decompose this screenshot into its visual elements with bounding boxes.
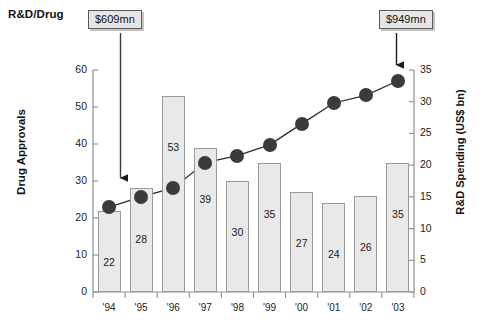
- line-marker-03: [391, 74, 405, 88]
- line-marker-94: [102, 200, 116, 214]
- y-left-tick-label: 60: [65, 63, 87, 75]
- chart-canvas: R&D/Drug Drug Approvals R&D Spending (US…: [0, 0, 490, 327]
- x-tick-label: '02: [349, 302, 383, 313]
- y-left-tick-label: 40: [65, 137, 87, 149]
- x-tick-label: '00: [285, 302, 319, 313]
- y-right-tick-label: 15: [420, 190, 444, 202]
- bar-value-label: 24: [317, 248, 351, 260]
- line-marker-97: [198, 156, 212, 170]
- x-tick-label: '03: [381, 302, 415, 313]
- x-tick-label: '01: [317, 302, 351, 313]
- line-marker-01: [327, 96, 341, 110]
- y-left-tick-label: 20: [65, 211, 87, 223]
- bar-value-label: 35: [253, 208, 287, 220]
- bar-value-label: 30: [220, 226, 254, 238]
- callout-right: $949mn: [379, 10, 433, 29]
- y-right-tick-label: 0: [420, 285, 444, 297]
- y-left-tick-label: 0: [65, 285, 87, 297]
- bar-value-label: 39: [188, 193, 222, 205]
- bar-value-label: 27: [285, 237, 319, 249]
- y-right-tick-label: 10: [420, 222, 444, 234]
- bar-94: [98, 211, 121, 292]
- line-marker-95: [134, 190, 148, 204]
- x-tick-label: '96: [156, 302, 190, 313]
- x-tick-label: '94: [92, 302, 126, 313]
- line-marker-00: [295, 117, 309, 131]
- y-right-tick-label: 5: [420, 253, 444, 265]
- y-right-tick-label: 35: [420, 63, 444, 75]
- y-left-tick-label: 10: [65, 248, 87, 260]
- y-right-tick-label: 20: [420, 158, 444, 170]
- x-tick-label: '98: [220, 302, 254, 313]
- line-marker-99: [263, 138, 277, 152]
- bar-value-label: 22: [92, 256, 126, 268]
- y-left-tick-label: 50: [65, 100, 87, 112]
- y-right-tick-label: 30: [420, 95, 444, 107]
- bar-value-label: 53: [156, 141, 190, 153]
- bar-03: [386, 163, 409, 293]
- bar-value-label: 28: [124, 233, 158, 245]
- y-left-tick-label: 30: [65, 174, 87, 186]
- x-tick-label: '95: [124, 302, 158, 313]
- x-tick-label: '97: [188, 302, 222, 313]
- bar-value-label: 35: [381, 208, 415, 220]
- bar-value-label: 26: [349, 241, 383, 253]
- x-tick-label: '99: [253, 302, 287, 313]
- callout-left: $609mn: [88, 10, 142, 29]
- bar-99: [258, 163, 281, 293]
- y-right-tick-label: 25: [420, 126, 444, 138]
- line-marker-98: [230, 149, 244, 163]
